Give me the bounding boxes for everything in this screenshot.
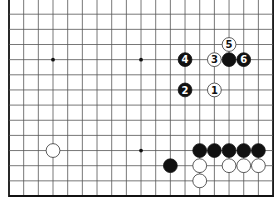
black-stone-icon — [222, 144, 236, 158]
white-stone-icon — [193, 174, 207, 188]
black-stone-move-2: 2 — [178, 83, 192, 97]
move-number: 5 — [226, 39, 233, 50]
black-stone-move-6: 6 — [237, 53, 251, 67]
white-stone-move-3: 3 — [207, 53, 221, 67]
star-point-icon — [139, 149, 143, 153]
move-number: 6 — [240, 54, 247, 65]
star-point-icon — [139, 58, 143, 62]
black-stone-icon — [251, 144, 265, 158]
white-stone — [251, 159, 265, 173]
white-stone — [237, 159, 251, 173]
move-number: 1 — [211, 85, 218, 96]
black-stone — [251, 144, 265, 158]
go-board-diagram: 123456 — [0, 0, 279, 209]
black-stone — [193, 144, 207, 158]
black-stone-icon — [207, 144, 221, 158]
move-number: 4 — [182, 54, 189, 65]
white-stone-icon — [46, 144, 60, 158]
black-stone-icon — [237, 144, 251, 158]
white-stone — [193, 174, 207, 188]
black-stone — [222, 144, 236, 158]
black-stone — [163, 159, 177, 173]
black-stone — [207, 144, 221, 158]
white-stone-icon — [193, 159, 207, 173]
move-number: 3 — [211, 54, 218, 65]
star-point-icon — [51, 58, 55, 62]
black-stone-move-4: 4 — [178, 53, 192, 67]
black-stone-icon — [193, 144, 207, 158]
white-stone-move-5: 5 — [222, 38, 236, 52]
white-stone-icon — [237, 159, 251, 173]
white-stone-icon — [222, 159, 236, 173]
white-stone — [46, 144, 60, 158]
black-stone — [237, 144, 251, 158]
black-stone-icon — [163, 159, 177, 173]
black-stone-icon — [222, 53, 236, 67]
white-stone — [222, 159, 236, 173]
white-stone — [193, 159, 207, 173]
white-stone-icon — [251, 159, 265, 173]
move-number: 2 — [182, 85, 189, 96]
white-stone-move-1: 1 — [207, 83, 221, 97]
black-stone — [222, 53, 236, 67]
